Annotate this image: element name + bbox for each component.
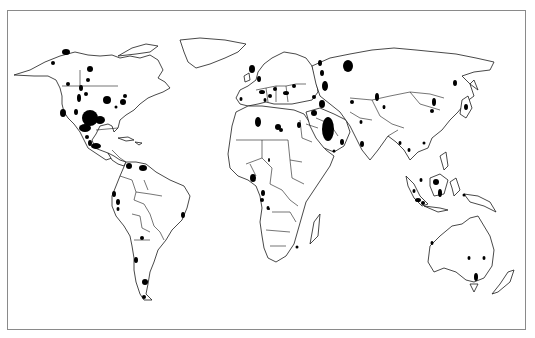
region-marker xyxy=(257,76,261,82)
region-marker xyxy=(333,150,336,153)
region-marker xyxy=(413,189,416,193)
region-marker xyxy=(283,91,289,95)
region-marker xyxy=(474,273,478,281)
region-marker xyxy=(421,201,425,205)
region-marker xyxy=(181,212,185,218)
region-marker xyxy=(123,94,127,98)
oceania xyxy=(428,216,514,294)
region-marker xyxy=(134,257,138,263)
region-marker xyxy=(312,95,316,99)
region-marker xyxy=(51,61,55,65)
region-marker xyxy=(375,93,379,101)
region-marker xyxy=(79,124,91,132)
region-marker xyxy=(87,66,93,72)
region-marker xyxy=(453,80,457,86)
region-marker xyxy=(268,208,270,210)
region-marker xyxy=(322,81,328,91)
greenland xyxy=(180,38,246,68)
british-isles xyxy=(244,73,250,82)
region-marker xyxy=(91,143,101,149)
region-marker xyxy=(82,110,98,126)
region-marker xyxy=(468,256,471,260)
region-marker xyxy=(264,98,267,102)
region-marker xyxy=(319,100,325,108)
region-marker xyxy=(259,90,265,94)
region-marker xyxy=(255,117,261,127)
southeast-asia xyxy=(406,152,496,212)
region-marker xyxy=(420,178,423,182)
region-marker xyxy=(296,246,299,249)
region-marker xyxy=(297,122,301,128)
region-marker xyxy=(279,128,283,132)
region-marker xyxy=(463,194,466,197)
philippines xyxy=(440,152,448,170)
region-marker xyxy=(438,189,442,197)
region-marker xyxy=(249,65,255,73)
region-marker xyxy=(268,158,270,162)
region-marker xyxy=(240,97,243,101)
region-marker xyxy=(103,96,111,104)
region-marker xyxy=(250,174,256,182)
madagascar xyxy=(310,214,320,244)
region-marker xyxy=(116,199,120,205)
region-marker xyxy=(360,141,364,147)
region-marker xyxy=(383,107,385,109)
region-marker xyxy=(432,98,436,106)
region-marker xyxy=(273,87,277,91)
region-marker xyxy=(84,92,88,96)
region-marker xyxy=(320,70,324,76)
tasmania xyxy=(470,284,478,292)
region-marker xyxy=(431,241,434,245)
region-marker xyxy=(399,141,402,145)
region-marker xyxy=(260,198,264,202)
region-marker xyxy=(423,142,426,145)
region-marker xyxy=(415,198,421,202)
region-marker xyxy=(74,109,78,115)
region-marker xyxy=(95,116,105,124)
region-marker xyxy=(139,165,147,171)
new-zealand xyxy=(492,270,514,294)
region-marker xyxy=(126,163,132,169)
region-marker xyxy=(77,94,81,102)
region-marker xyxy=(311,110,317,116)
region-marker xyxy=(430,109,434,113)
region-marker xyxy=(350,100,354,104)
region-marker xyxy=(261,190,265,196)
region-marker xyxy=(408,148,411,152)
region-marker xyxy=(464,104,468,110)
region-marker xyxy=(318,60,322,66)
region-marker xyxy=(66,82,70,86)
region-marker xyxy=(142,279,148,285)
region-marker xyxy=(117,207,120,211)
region-marker xyxy=(433,179,439,185)
region-marker xyxy=(85,135,89,139)
region-marker xyxy=(142,295,146,299)
south-america xyxy=(112,162,190,300)
region-marker xyxy=(112,191,116,197)
region-marker xyxy=(120,99,126,105)
europe xyxy=(236,52,318,106)
north-america xyxy=(14,38,246,162)
region-marker xyxy=(62,49,70,55)
region-marker xyxy=(322,117,334,141)
region-marker xyxy=(115,106,118,109)
region-marker xyxy=(343,60,353,72)
region-marker xyxy=(86,78,90,82)
region-marker xyxy=(79,85,83,91)
world-map xyxy=(0,0,535,338)
region-marker xyxy=(60,109,66,117)
region-marker xyxy=(268,94,272,98)
region-marker xyxy=(340,139,344,145)
region-marker xyxy=(140,236,144,240)
region-marker xyxy=(360,120,363,124)
region-marker xyxy=(483,256,486,260)
region-marker xyxy=(292,84,296,88)
